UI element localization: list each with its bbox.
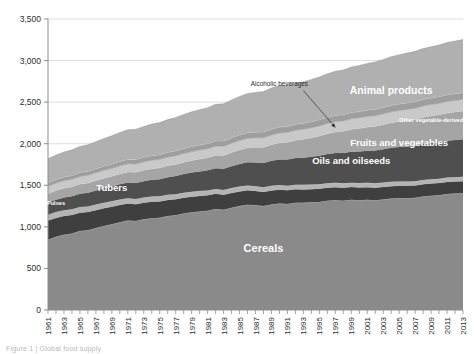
x-tick-label: 2003: [379, 316, 388, 334]
x-tick-label: 1995: [315, 316, 324, 334]
x-tick-label: 1991: [283, 316, 292, 334]
x-tick-label: 1969: [108, 316, 117, 334]
y-tick-label: 2,000: [20, 139, 42, 149]
figure-caption: Figure 1 | Global food supply: [6, 345, 101, 352]
annotation-label: Alcoholic beverages: [251, 80, 308, 88]
series-label: Fruits and vegetables: [350, 137, 448, 148]
x-tick-label: 1963: [60, 316, 69, 334]
x-tick-label: 1999: [347, 316, 356, 334]
x-tick-label: 1983: [220, 316, 229, 334]
series-label: Pulses: [47, 200, 65, 206]
figure-container: 05001,0001,5002,0002,5003,0003,500196119…: [0, 0, 474, 354]
x-tick-label: 1985: [236, 316, 245, 334]
x-tick-label: 1997: [331, 316, 340, 334]
stacked-area-chart: 05001,0001,5002,0002,5003,0003,500196119…: [0, 0, 474, 354]
x-tick-label: 1975: [156, 316, 165, 334]
series-label: Cereals: [244, 242, 284, 254]
x-tick-label: 2005: [395, 316, 404, 334]
series-label: Tubers: [96, 182, 127, 193]
x-tick-label: 1967: [92, 316, 101, 334]
x-tick-label: 1981: [204, 316, 213, 334]
y-tick-label: 1,500: [20, 180, 42, 190]
series-label: Oils and oilseeds: [312, 155, 390, 166]
y-tick-label: 500: [27, 263, 41, 273]
y-tick-label: 3,000: [20, 56, 42, 66]
x-tick-label: 1993: [299, 316, 308, 334]
series-label: Other vegetable-derived: [399, 117, 464, 123]
x-tick-label: 2001: [363, 316, 372, 334]
series-label: Animal products: [350, 84, 433, 96]
x-tick-label: 1965: [76, 316, 85, 334]
x-tick-label: 2007: [411, 316, 420, 334]
y-tick-label: 2,500: [20, 97, 42, 107]
x-tick-label: 1971: [124, 316, 133, 334]
x-tick-label: 1961: [44, 316, 53, 334]
x-tick-label: 1989: [267, 316, 276, 334]
x-tick-label: 2009: [427, 316, 436, 334]
x-tick-label: 1979: [188, 316, 197, 334]
x-tick-label: 1973: [140, 316, 149, 334]
x-tick-label: 1977: [172, 316, 181, 334]
y-tick-label: 1,000: [20, 222, 42, 232]
y-tick-label: 3,500: [20, 14, 42, 24]
y-tick-label: 0: [36, 305, 41, 315]
x-tick-label: 1987: [252, 316, 261, 334]
x-tick-label: 2011: [443, 316, 452, 334]
x-tick-label: 2013: [459, 316, 468, 334]
